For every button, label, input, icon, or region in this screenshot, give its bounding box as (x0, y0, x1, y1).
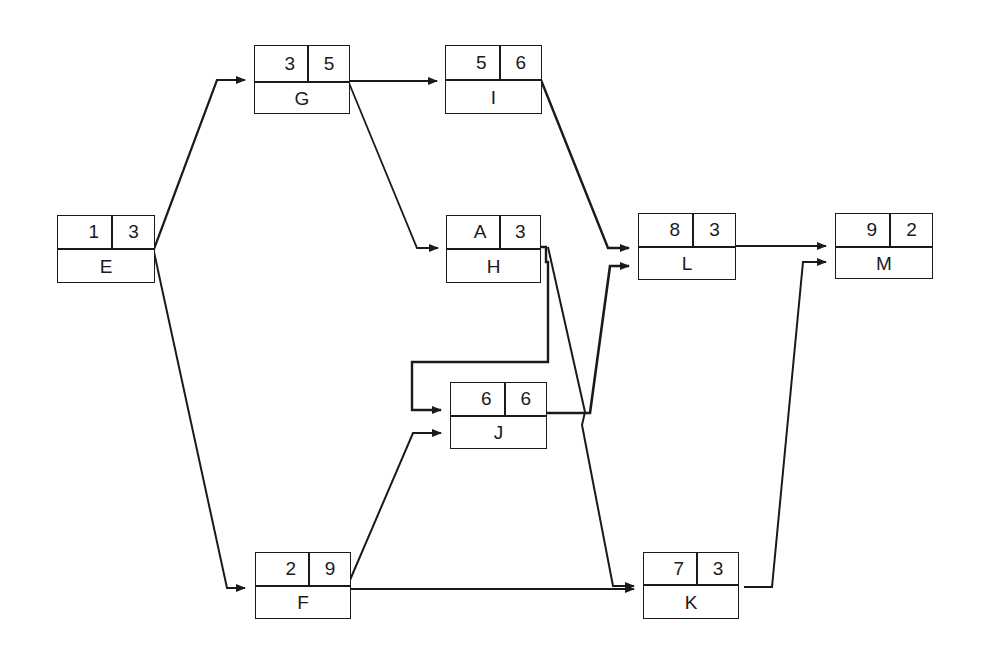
node-top-left-value: 8 (639, 214, 694, 246)
node-top-right-value: 6 (506, 383, 547, 415)
edge-h-to-k (548, 247, 634, 586)
node-top-right-value: 5 (309, 46, 349, 81)
node-top-row: A 3 (447, 216, 540, 250)
edge-g-to-h (349, 83, 438, 248)
activity-node-g[interactable]: 3 5 G (254, 45, 350, 114)
node-top-right-value: 3 (694, 214, 735, 246)
node-label: J (451, 418, 546, 448)
node-top-left-value: 2 (256, 553, 310, 585)
activity-node-h[interactable]: A 3 H (446, 215, 541, 283)
node-label: M (836, 249, 932, 278)
node-top-right-value: 6 (501, 46, 542, 79)
activity-node-e[interactable]: 1 3 E (57, 215, 155, 283)
activity-node-l[interactable]: 8 3 L (638, 213, 736, 280)
node-top-left-value: 9 (836, 214, 891, 246)
activity-node-k[interactable]: 7 3 K (643, 552, 739, 619)
node-top-left-value: 7 (644, 553, 698, 584)
node-label: H (447, 251, 540, 282)
node-label: G (255, 84, 349, 113)
node-label: K (644, 587, 738, 618)
node-top-left-value: 3 (255, 46, 309, 81)
node-top-left-value: A (447, 216, 501, 248)
activity-node-m[interactable]: 9 2 M (835, 213, 933, 279)
node-top-right-value: 9 (310, 553, 350, 585)
edge-j-to-l (546, 266, 629, 413)
node-top-row: 3 5 (255, 46, 349, 83)
node-top-row: 9 2 (836, 214, 932, 248)
node-label: E (58, 251, 154, 282)
node-top-left-value: 5 (446, 46, 501, 79)
edge-f-to-j (350, 433, 441, 580)
edge-i-to-l (541, 80, 629, 248)
node-label: L (639, 249, 735, 279)
node-top-right-value: 3 (698, 553, 738, 584)
activity-node-f[interactable]: 2 9 F (255, 552, 351, 619)
node-top-row: 7 3 (644, 553, 738, 586)
node-top-left-value: 6 (451, 383, 506, 415)
node-top-right-value: 3 (113, 216, 154, 248)
edge-k-to-m (744, 262, 826, 587)
node-top-left-value: 1 (58, 216, 113, 248)
node-top-right-value: 2 (891, 214, 932, 246)
edge-e-to-f (154, 252, 245, 588)
node-top-row: 8 3 (639, 214, 735, 248)
edge-e-to-g (154, 80, 245, 249)
node-label: I (446, 82, 541, 113)
node-top-row: 2 9 (256, 553, 350, 587)
activity-node-i[interactable]: 5 6 I (445, 45, 542, 114)
node-label: F (256, 588, 350, 618)
node-top-row: 5 6 (446, 46, 541, 81)
node-top-right-value: 3 (501, 216, 541, 248)
node-top-row: 1 3 (58, 216, 154, 250)
node-top-row: 6 6 (451, 383, 546, 417)
activity-node-j[interactable]: 6 6 J (450, 382, 547, 449)
